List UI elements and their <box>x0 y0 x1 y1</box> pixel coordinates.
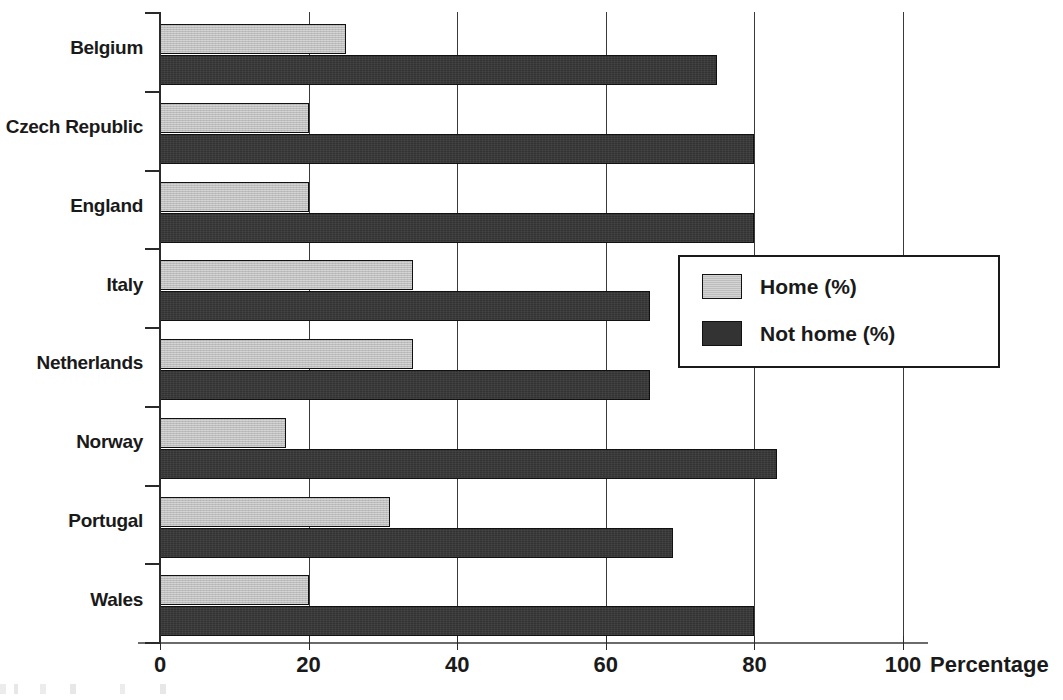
bar-group <box>160 563 903 642</box>
legend-swatch-home-icon <box>702 274 742 299</box>
bar-home <box>160 103 309 133</box>
y-axis-tick <box>145 12 160 14</box>
x-axis-tick-20 <box>309 636 310 650</box>
bar-group <box>160 485 903 564</box>
legend-label-not-home: Not home (%) <box>760 322 895 346</box>
category-label-netherlands: Netherlands <box>0 352 143 374</box>
category-label-belgium: Belgium <box>0 37 143 59</box>
bar-not-home <box>160 606 754 636</box>
x-axis-tick-label-40: 40 <box>445 652 469 678</box>
y-axis-tick <box>145 406 160 408</box>
y-axis-tick <box>145 91 160 93</box>
bar-not-home <box>160 370 650 400</box>
legend-item-home: Home (%) <box>702 274 857 299</box>
y-axis-tick <box>145 248 160 250</box>
legend-swatch-not-home-icon <box>702 321 742 346</box>
legend-item-not-home: Not home (%) <box>702 321 895 346</box>
x-axis-tick-40 <box>457 636 458 650</box>
bar-not-home <box>160 134 754 164</box>
category-label-czech-republic: Czech Republic <box>0 116 143 138</box>
y-axis-tick <box>145 327 160 329</box>
bar-chart: BelgiumCzech RepublicEnglandItalyNetherl… <box>0 0 1063 700</box>
bar-home <box>160 182 309 212</box>
bar-group <box>160 91 903 170</box>
x-axis-tick-label-0: 0 <box>154 652 166 678</box>
bar-not-home <box>160 291 650 321</box>
x-axis-tick-100 <box>903 636 904 650</box>
category-label-wales: Wales <box>0 589 143 611</box>
x-axis-line <box>138 642 928 644</box>
x-axis-tick-label-20: 20 <box>296 652 320 678</box>
y-axis-tick <box>145 642 160 644</box>
x-axis-tick-80 <box>754 636 755 650</box>
x-axis-title: Percentage <box>930 652 1049 678</box>
x-axis-tick-label-80: 80 <box>742 652 766 678</box>
bar-home <box>160 418 286 448</box>
bar-group <box>160 12 903 91</box>
category-label-england: England <box>0 195 143 217</box>
bar-group <box>160 170 903 249</box>
bar-home <box>160 260 413 290</box>
bar-not-home <box>160 55 717 85</box>
scan-artifact <box>0 684 240 694</box>
bar-not-home <box>160 528 673 558</box>
bar-home <box>160 339 413 369</box>
bar-not-home <box>160 213 754 243</box>
bar-home <box>160 497 390 527</box>
bar-not-home <box>160 449 777 479</box>
x-axis-tick-0 <box>160 636 161 650</box>
x-axis-tick-label-60: 60 <box>594 652 618 678</box>
legend-label-home: Home (%) <box>760 275 857 299</box>
chart-legend: Home (%) Not home (%) <box>678 255 1000 368</box>
x-axis-tick-60 <box>606 636 607 650</box>
category-label-norway: Norway <box>0 431 143 453</box>
bar-home <box>160 24 346 54</box>
bar-group <box>160 406 903 485</box>
y-axis-tick <box>145 485 160 487</box>
y-axis-tick <box>145 170 160 172</box>
x-axis-tick-label-100: 100 <box>885 652 922 678</box>
bar-home <box>160 575 309 605</box>
category-label-portugal: Portugal <box>0 510 143 532</box>
category-label-italy: Italy <box>0 274 143 296</box>
y-axis-tick <box>145 563 160 565</box>
